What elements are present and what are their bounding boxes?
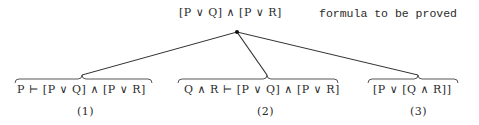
brace-2 <box>178 75 338 83</box>
edge-to-branch-3 <box>237 32 418 75</box>
apex-node <box>235 30 239 34</box>
brace-3 <box>368 75 458 83</box>
root-formula: [P ∨ Q] ∧ [P ∨ R] <box>179 7 282 18</box>
branch-2-label: (2) <box>257 106 274 117</box>
edge-to-branch-1 <box>82 32 237 75</box>
branch-3-label: (3) <box>410 106 427 117</box>
brace-1 <box>15 75 152 83</box>
branch-2-formula: Q ∧ R ⊢ [P ∨ Q] ∧ [P ∨ R] <box>184 84 340 95</box>
branch-1-formula: P ⊢ [P ∨ Q] ∧ [P ∨ R] <box>17 84 146 95</box>
branch-3-formula: [P ∨ [Q ∧ R]] <box>373 84 451 95</box>
branch-1-label: (1) <box>77 106 94 117</box>
root-caption: formula to be proved <box>319 8 457 20</box>
